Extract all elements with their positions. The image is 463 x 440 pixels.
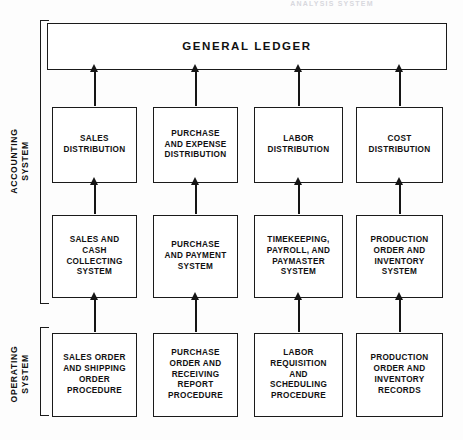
box-purchase-and-expense-distribution: PURCHASE AND EXPENSE DISTRIBUTION	[153, 107, 238, 183]
box-sales-distribution: SALES DISTRIBUTION	[52, 107, 137, 183]
box-purchase-order-and-receiving-report-procedure: PURCHASE ORDER AND RECEIVING REPORT PROC…	[153, 333, 238, 417]
box-line: ORDER	[60, 375, 129, 386]
box-line: SYSTEM	[367, 267, 431, 278]
arrow-timekeeping-system-to-labor-distribution	[298, 184, 300, 214]
arrow-purchase-order-procedure-to-purchase-system	[195, 299, 197, 332]
box-line: PAYMASTER	[264, 257, 333, 268]
box-cost-distribution: COST DISTRIBUTION	[356, 107, 443, 183]
box-line: PRODUCTION	[367, 353, 431, 364]
box-general-ledger: GENERAL LEDGER	[47, 23, 447, 70]
side-label-operating-line2: SYSTEM	[20, 344, 31, 404]
box-line: AND EXPENSE	[162, 140, 230, 151]
box-line: SALES AND	[53, 235, 136, 246]
box-sales-and-cash-collecting-system: SALES AND CASH COLLECTING SYSTEM	[52, 215, 137, 298]
box-line: PAYROLL, AND	[264, 246, 333, 257]
arrow-purchase-expense-distribution-to-ledger	[195, 71, 197, 106]
box-line: ORDER AND	[367, 364, 431, 375]
arrow-purchase-system-to-purchase-distribution	[195, 184, 197, 214]
side-label-operating-line1: OPERATING	[9, 344, 20, 404]
box-line: PURCHASE	[162, 240, 230, 251]
box-line: RECEIVING REPORT	[154, 370, 237, 392]
side-label-accounting-line1: ACCOUNTING	[9, 126, 20, 196]
box-timekeeping-payroll-and-paymaster-system: TIMEKEEPING, PAYROLL, AND PAYMASTER SYST…	[254, 215, 343, 298]
box-line: AND SHIPPING	[60, 364, 129, 375]
box-line: PURCHASE	[162, 129, 230, 140]
arrow-production-records-to-production-system	[399, 299, 401, 332]
box-line: INVENTORY	[367, 257, 431, 268]
box-production-order-and-inventory-records: PRODUCTION ORDER AND INVENTORY RECORDS	[356, 333, 443, 417]
box-line: AND	[255, 370, 342, 381]
box-line: PURCHASE	[154, 348, 237, 359]
diagram-page: ANALYSIS SYSTEM ACCOUNTING SYSTEM OPERAT…	[0, 0, 463, 440]
box-line: PROCEDURE	[60, 386, 129, 397]
box-line: SALES	[61, 134, 129, 145]
box-line: DISTRIBUTION	[61, 145, 129, 156]
box-line: PRODUCTION	[367, 235, 431, 246]
bracket-operating-system	[40, 327, 49, 416]
box-line: PROCEDURE	[154, 391, 237, 402]
box-line: DISTRIBUTION	[265, 145, 333, 156]
arrow-production-system-to-cost-distribution	[399, 184, 401, 214]
box-line: CASH COLLECTING	[53, 246, 136, 268]
arrow-sales-distribution-to-ledger	[94, 71, 96, 106]
box-general-ledger-label: GENERAL LEDGER	[179, 39, 315, 54]
box-labor-distribution: LABOR DISTRIBUTION	[254, 107, 343, 183]
box-labor-requisition-and-scheduling-procedure: LABOR REQUISITION AND SCHEDULING PROCEDU…	[254, 333, 343, 417]
box-line: ORDER AND	[367, 246, 431, 257]
box-line: SYSTEM	[264, 267, 333, 278]
box-line: RECORDS	[367, 386, 431, 397]
running-head-artifact: ANALYSIS SYSTEM	[232, 0, 432, 10]
arrow-sales-order-procedure-to-sales-system	[94, 299, 96, 332]
box-line: INVENTORY	[367, 375, 431, 386]
box-line: SYSTEM	[53, 267, 136, 278]
arrow-cost-distribution-to-ledger	[399, 71, 401, 106]
box-line: AND PAYMENT	[162, 251, 230, 262]
box-purchase-and-payment-system: PURCHASE AND PAYMENT SYSTEM	[153, 215, 238, 298]
side-label-operating-system: OPERATING SYSTEM	[9, 344, 31, 404]
box-line: SCHEDULING	[255, 380, 342, 391]
side-label-accounting-system: ACCOUNTING SYSTEM	[9, 126, 31, 196]
box-sales-order-and-shipping-order-procedure: SALES ORDER AND SHIPPING ORDER PROCEDURE	[52, 333, 137, 417]
box-line: LABOR REQUISITION	[255, 348, 342, 370]
box-line: TIMEKEEPING,	[264, 235, 333, 246]
box-production-order-and-inventory-system: PRODUCTION ORDER AND INVENTORY SYSTEM	[356, 215, 443, 298]
box-line: SALES ORDER	[60, 353, 129, 364]
arrow-sales-system-to-sales-distribution	[94, 184, 96, 214]
box-line: COST	[366, 134, 434, 145]
box-line: DISTRIBUTION	[366, 145, 434, 156]
box-line: LABOR	[265, 134, 333, 145]
arrow-labor-distribution-to-ledger	[298, 71, 300, 106]
box-line: DISTRIBUTION	[162, 150, 230, 161]
box-line: ORDER AND	[154, 359, 237, 370]
box-line: PROCEDURE	[255, 391, 342, 402]
box-line: SYSTEM	[162, 262, 230, 273]
side-label-accounting-line2: SYSTEM	[20, 126, 31, 196]
arrow-labor-requisition-procedure-to-timekeeping-system	[298, 299, 300, 332]
